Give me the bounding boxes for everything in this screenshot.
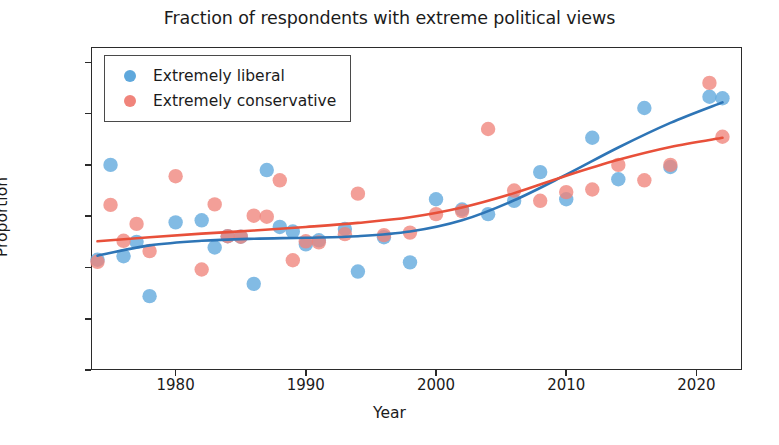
data-point	[559, 185, 573, 199]
data-point	[207, 240, 221, 254]
chart-figure: Fraction of respondents with extreme pol…	[0, 0, 779, 445]
data-point	[611, 172, 625, 186]
y-tick-mark	[85, 62, 91, 64]
data-point	[207, 197, 221, 211]
data-point	[702, 90, 716, 104]
data-point	[194, 262, 208, 276]
x-tick-mark	[435, 370, 437, 376]
y-tick-mark	[85, 318, 91, 320]
y-tick-mark	[85, 164, 91, 166]
data-point	[286, 253, 300, 267]
data-point	[247, 208, 261, 222]
data-point	[103, 198, 117, 212]
data-point	[273, 173, 287, 187]
data-point	[103, 158, 117, 172]
y-tick-mark	[85, 113, 91, 115]
data-point	[247, 277, 261, 291]
x-tick-label: 1980	[136, 376, 216, 394]
x-tick-label: 2000	[396, 376, 476, 394]
data-point	[338, 227, 352, 241]
trend-lines-group	[98, 102, 723, 255]
x-tick-label: 1990	[266, 376, 346, 394]
data-point	[533, 165, 547, 179]
x-tick-label: 2020	[656, 376, 736, 394]
data-point	[585, 131, 599, 145]
data-point	[429, 192, 443, 206]
trend-line	[98, 102, 723, 255]
data-point	[637, 173, 651, 187]
data-point	[168, 215, 182, 229]
legend-item-liberal[interactable]: Extremely liberal	[115, 63, 336, 88]
data-point	[702, 76, 716, 90]
data-point	[533, 194, 547, 208]
data-point	[142, 289, 156, 303]
data-point	[403, 255, 417, 269]
chart-legend: Extremely liberal Extremely conservative	[104, 55, 351, 122]
data-point	[260, 210, 274, 224]
data-point	[129, 217, 143, 231]
data-point	[260, 163, 274, 177]
data-point	[168, 169, 182, 183]
x-tick-label: 2010	[526, 376, 606, 394]
legend-label-liberal: Extremely liberal	[153, 67, 285, 85]
data-point	[351, 186, 365, 200]
data-point	[194, 213, 208, 227]
data-point	[585, 182, 599, 196]
data-point	[273, 220, 287, 234]
chart-title: Fraction of respondents with extreme pol…	[0, 8, 779, 28]
y-tick-mark	[85, 369, 91, 371]
data-point	[663, 158, 677, 172]
y-tick-mark	[85, 215, 91, 217]
y-axis-label: Proportion	[0, 177, 11, 257]
x-axis-label: Year	[0, 404, 779, 422]
data-point	[299, 234, 313, 248]
x-tick-mark	[696, 370, 698, 376]
legend-marker-liberal	[124, 70, 136, 82]
x-tick-mark	[565, 370, 567, 376]
data-point	[351, 264, 365, 278]
y-tick-mark	[85, 267, 91, 269]
legend-marker-conservative	[124, 95, 136, 107]
legend-label-conservative: Extremely conservative	[153, 92, 336, 110]
legend-item-conservative[interactable]: Extremely conservative	[115, 88, 336, 113]
data-point	[481, 122, 495, 136]
data-point	[637, 101, 651, 115]
x-tick-mark	[305, 370, 307, 376]
x-tick-mark	[175, 370, 177, 376]
